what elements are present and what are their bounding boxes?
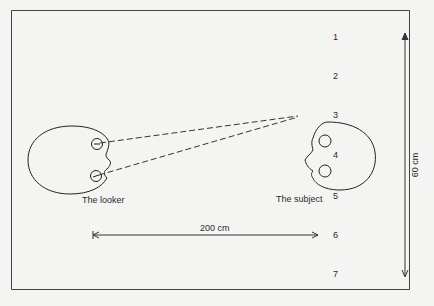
- distance-label: 200 cm: [200, 223, 230, 233]
- gaze-line-lower: [99, 117, 298, 175]
- position-2: 2: [333, 71, 338, 81]
- position-1: 1: [333, 32, 338, 42]
- position-4: 4: [333, 150, 338, 160]
- position-7: 7: [333, 269, 338, 279]
- position-5: 5: [333, 191, 338, 201]
- subject-label: The subject: [276, 194, 323, 204]
- height-label: 60 cm: [410, 153, 420, 178]
- looker-label: The looker: [82, 195, 125, 205]
- position-6: 6: [333, 230, 338, 240]
- gaze-diagram: The looker The subject 200 cm 60 cm 1 2 …: [0, 0, 434, 306]
- position-3: 3: [333, 110, 338, 120]
- diagram-frame: [12, 11, 410, 290]
- height-arrow: [402, 33, 408, 277]
- subject-head: [305, 122, 375, 190]
- subject-eye-upper: [319, 135, 331, 147]
- gaze-line-upper: [100, 116, 298, 143]
- subject-eye-lower: [319, 165, 331, 177]
- looker-head: [28, 126, 110, 194]
